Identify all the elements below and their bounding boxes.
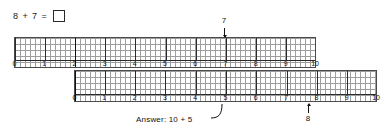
answer-leader-line [0,0,392,134]
worksheet-canvas: 8 + 7 = 012345678910 012345678910 7 8 An… [0,0,392,134]
